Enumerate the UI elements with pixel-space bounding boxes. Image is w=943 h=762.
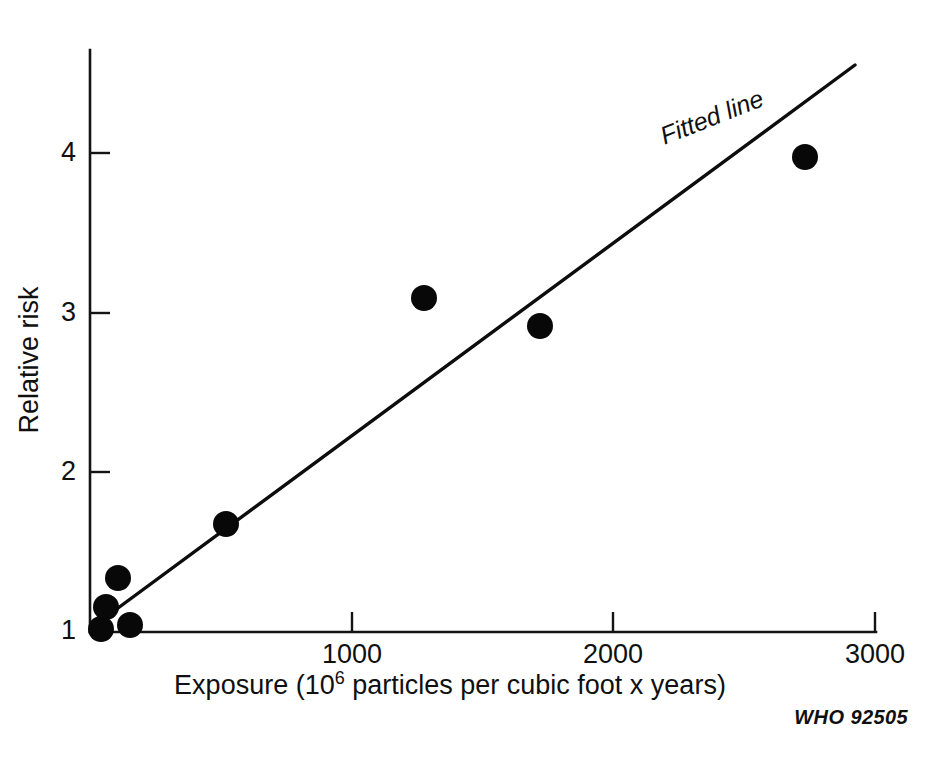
y-tick-label-1: 1 (61, 615, 76, 645)
x-axis-ticks (352, 612, 875, 632)
x-tick-label-1000: 1000 (322, 639, 382, 669)
data-point[interactable] (105, 565, 131, 591)
x-tick-label-3000: 3000 (845, 639, 905, 669)
y-axis-tick-labels: 1 2 3 4 (61, 137, 76, 645)
x-axis-tick-labels: 1000 2000 3000 (322, 639, 905, 669)
y-tick-label-2: 2 (61, 456, 76, 486)
data-point[interactable] (411, 285, 437, 311)
data-point[interactable] (88, 616, 114, 642)
x-axis-title-after: particles per cubic foot x years) (345, 670, 726, 700)
who-document-code: WHO 92505 (794, 706, 908, 728)
fitted-line-label-group: Fitted line (656, 84, 767, 150)
y-tick-label-4: 4 (61, 137, 76, 167)
data-point[interactable] (792, 144, 818, 170)
data-point[interactable] (117, 612, 143, 638)
data-point[interactable] (527, 313, 553, 339)
data-point[interactable] (213, 511, 239, 537)
y-axis-ticks (90, 153, 110, 631)
data-points-group (88, 144, 818, 642)
fitted-line (95, 65, 855, 625)
x-axis-title: Exposure (106 particles per cubic foot x… (174, 668, 726, 700)
figure-container: 1 2 3 4 1000 2000 3000 Relative risk Exp… (0, 0, 943, 762)
y-axis-title-group: Relative risk (14, 286, 44, 434)
fitted-line-label: Fitted line (656, 84, 767, 150)
y-axis-title: Relative risk (14, 286, 44, 434)
x-axis-title-before: Exposure (10 (174, 670, 335, 700)
y-tick-label-3: 3 (61, 297, 76, 327)
scatter-plot: 1 2 3 4 1000 2000 3000 Relative risk Exp… (0, 0, 943, 762)
x-tick-label-2000: 2000 (583, 639, 643, 669)
x-axis-title-superscript: 6 (335, 668, 345, 688)
data-point[interactable] (93, 594, 119, 620)
